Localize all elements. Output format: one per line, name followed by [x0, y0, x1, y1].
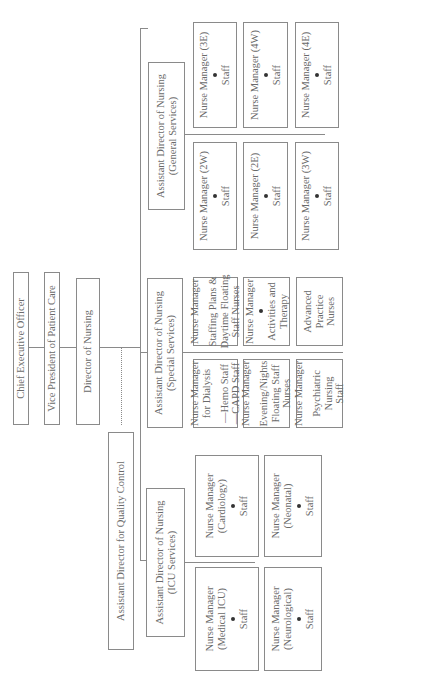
nm-line: Nursing — [323, 377, 335, 411]
nm-line: Therapy — [278, 294, 290, 329]
nm-line: Evening/Nights — [258, 361, 270, 427]
nm-staff: Staff — [271, 65, 283, 85]
nm-title: Nurse Manager — [189, 279, 201, 344]
nm-4e-box: Nurse Manager (4E) Staff — [295, 22, 339, 128]
nm-staff: Staff — [238, 609, 250, 629]
nm-line: Advanced — [302, 290, 314, 333]
nm-line: —Hemo Staff — [219, 364, 231, 423]
adn-special-subtitle: (Special Services) — [165, 315, 177, 391]
nm-medical-icu-box: Nurse Manager (Medical ICU) Staff — [195, 567, 259, 671]
adn-general-title: Assistant Director of Nursing — [155, 74, 167, 198]
connector-to-general — [140, 28, 148, 29]
nm-dialysis-box: Nurse Manager for Dialysis —Hemo Staff —… — [193, 359, 238, 428]
vp-box: Vice President of Patient Care — [44, 272, 60, 425]
nm-title: Nurse Manager — [270, 587, 282, 652]
director-label: Director of Nursing — [82, 310, 94, 393]
nm-title: Nurse Manager — [204, 587, 216, 652]
nm-staffing-box: Nurse Manager Staffing Plans & Daytime F… — [193, 277, 238, 346]
nm-title: Nurse Manager (4E) — [300, 32, 312, 118]
adn-special-box: Assistant Director of Nursing (Special S… — [147, 278, 183, 428]
connector-icu-stem — [185, 562, 255, 563]
nm-2e-box: Nurse Manager (2E) Staff — [243, 142, 288, 250]
nm-3w-box: Nurse Manager (3W) Staff — [295, 142, 339, 250]
nm-line: Daytime Floating — [219, 275, 231, 349]
nm-title: Nurse Manager — [189, 361, 201, 426]
bullet-icon — [231, 617, 235, 621]
bullet-icon — [213, 194, 217, 198]
nm-cardiology-box: Nurse Manager (Cardiology) Staff — [195, 455, 259, 557]
nm-staff: Staff — [304, 609, 316, 629]
nm-line: Activities and — [266, 282, 278, 341]
adn-general-subtitle: (General Services) — [167, 97, 179, 175]
nm-title: Nurse Manager — [204, 474, 216, 539]
nm-line: Practice — [314, 295, 326, 329]
nm-title: Nurse Manager (3W) — [300, 151, 312, 241]
nm-staff: Staff — [322, 65, 334, 85]
adn-special-title: Assistant Director of Nursing — [153, 291, 165, 415]
nm-line: Staff Nurses — [230, 286, 242, 338]
adn-icu-box: Assistant Director of Nursing (ICU Servi… — [146, 488, 185, 637]
bullet-icon — [315, 194, 319, 198]
connector-adn-bus — [140, 28, 141, 561]
nm-line: Floating Staff — [270, 365, 282, 423]
nm-title: Nurse Manager — [270, 474, 282, 539]
bullet-icon — [297, 617, 301, 621]
vp-label: Vice President of Patient Care — [46, 285, 58, 412]
nm-staff: Staff — [220, 65, 232, 85]
director-box: Director of Nursing — [76, 278, 100, 425]
nm-title: Nurse Manager — [240, 361, 252, 426]
ceo-label: Chief Executive Officer — [15, 298, 27, 399]
adn-general-box: Assistant Director of Nursing (General S… — [148, 62, 185, 210]
org-chart: Chief Executive Officer Vice President o… — [0, 0, 422, 683]
connector-general-stem — [185, 134, 325, 135]
nm-neurological-box: Nurse Manager (Neurological) Staff — [264, 567, 322, 671]
advanced-practice-box: Advanced Practice Nurses — [296, 277, 343, 346]
connector-vp-director — [59, 347, 76, 348]
nm-staff: Staff — [304, 496, 316, 516]
nm-title: Nurse Manager (2W) — [198, 151, 210, 241]
bullet-icon — [264, 194, 268, 198]
nm-2w-box: Nurse Manager (2W) Staff — [193, 142, 237, 250]
nm-unit: (Medical ICU) — [216, 588, 228, 650]
bullet-icon — [259, 310, 263, 314]
quality-control-label: Assistant Director for Quality Control — [115, 461, 127, 621]
nm-staff: Staff — [271, 186, 283, 206]
nm-unit: (Neurological) — [282, 588, 294, 650]
nm-staff: Staff — [322, 186, 334, 206]
bullet-icon — [264, 73, 268, 77]
nm-staff: Staff — [220, 186, 232, 206]
nm-line: Psychiatric — [311, 370, 323, 417]
bullet-icon — [297, 504, 301, 508]
ceo-box: Chief Executive Officer — [13, 272, 29, 425]
adn-icu-subtitle: (ICU Services) — [166, 531, 178, 594]
nm-line: Staff — [334, 383, 346, 403]
connector-ceo-vp — [28, 347, 44, 348]
bullet-icon — [315, 73, 319, 77]
connector-quality-dotted — [121, 348, 122, 425]
nm-title: Nurse Manager — [293, 361, 305, 426]
connector-director-bus — [100, 347, 140, 348]
nm-neonatal-box: Nurse Manager (Neonatal) Staff — [264, 455, 322, 557]
nm-activities-box: Nurse Manager Activities and Therapy — [243, 277, 290, 346]
bullet-icon — [231, 504, 235, 508]
nm-title: Nurse Manager (4W) — [249, 30, 261, 120]
nm-title: Nurse Manager (2E) — [249, 153, 261, 239]
nm-line: Nurses — [281, 379, 293, 408]
connector-special-stem — [183, 352, 343, 353]
nm-unit: (Neonatal) — [282, 484, 294, 529]
nm-4w-box: Nurse Manager (4W) Staff — [243, 22, 288, 128]
nm-title: Nurse Manager — [244, 279, 256, 344]
connector-to-special — [140, 352, 147, 353]
nm-3e-box: Nurse Manager (3E) Staff — [193, 22, 237, 128]
nm-unit: (Cardiology) — [216, 479, 228, 533]
quality-control-box: Assistant Director for Quality Control — [108, 432, 134, 650]
bullet-icon — [213, 73, 217, 77]
nm-line: Staffing Plans & — [207, 277, 219, 347]
nm-line: for Dialysis — [201, 369, 213, 418]
nm-psychiatric-box: Nurse Manager Psychiatric Nursing Staff — [296, 359, 343, 428]
nm-staff: Staff — [238, 496, 250, 516]
nm-line: Nurses — [325, 297, 337, 326]
nm-evening-box: Nurse Manager Evening/Nights Floating St… — [243, 359, 290, 428]
adn-icu-title: Assistant Director of Nursing — [154, 501, 166, 625]
nm-title: Nurse Manager (3E) — [198, 32, 210, 118]
